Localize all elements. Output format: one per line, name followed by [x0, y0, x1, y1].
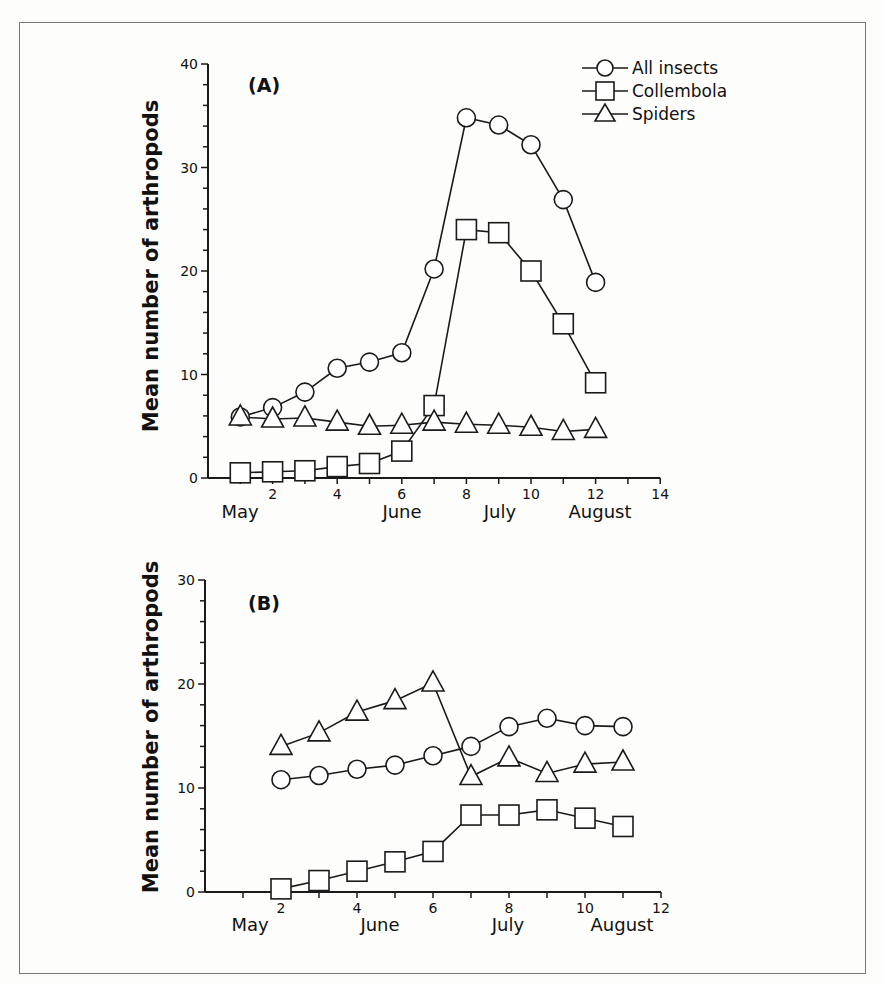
circle-marker: [424, 747, 442, 765]
square-icon: [596, 82, 614, 100]
legend: All insectsCollembolaSpiders: [582, 58, 727, 124]
series-collembola: [240, 230, 595, 473]
square-marker: [327, 457, 347, 477]
square-marker: [347, 861, 367, 881]
x-tick-label: 12: [587, 486, 605, 502]
chart-figure: 0102030402468101214MayJuneJulyAugustMean…: [0, 0, 883, 984]
month-label: May: [231, 914, 269, 935]
series-all-insects: [281, 718, 623, 779]
x-tick-label: 10: [522, 486, 540, 502]
circle-marker: [576, 717, 594, 735]
x-tick-label: 12: [652, 900, 670, 916]
month-label: June: [381, 501, 421, 522]
square-marker: [309, 871, 329, 891]
triangle-icon: [595, 104, 615, 121]
legend-label: All insects: [632, 58, 718, 78]
y-tick-label: 20: [180, 263, 198, 279]
square-marker: [385, 852, 405, 872]
triangle-marker: [308, 721, 330, 741]
triangle-marker: [460, 765, 482, 785]
triangle-marker: [488, 413, 510, 433]
circle-marker: [361, 353, 379, 371]
square-marker: [521, 261, 541, 281]
triangle-marker: [574, 752, 596, 772]
legend-item: Collembola: [582, 81, 727, 101]
triangle-marker: [422, 671, 444, 691]
triangle-marker: [384, 689, 406, 709]
square-marker: [295, 461, 315, 481]
series-line: [281, 683, 623, 777]
triangle-marker: [498, 746, 520, 766]
y-tick-label: 20: [177, 676, 195, 692]
month-label: August: [591, 914, 654, 935]
square-marker: [230, 463, 250, 483]
triangle-marker: [359, 414, 381, 434]
y-tick-label: 10: [177, 780, 195, 796]
triangle-marker: [294, 406, 316, 426]
square-marker: [360, 454, 380, 474]
x-tick-label: 8: [462, 486, 471, 502]
month-label: July: [491, 914, 525, 935]
x-tick-label: 2: [268, 486, 277, 502]
square-marker: [271, 879, 291, 899]
legend-label: Spiders: [632, 104, 696, 124]
square-marker: [613, 816, 633, 836]
circle-marker: [500, 718, 518, 736]
y-tick-label: 30: [180, 160, 198, 176]
series-line: [281, 810, 623, 889]
circle-marker: [554, 191, 572, 209]
series-collembola: [281, 810, 623, 889]
circle-marker: [272, 771, 290, 789]
square-marker: [263, 462, 283, 482]
triangle-marker: [520, 415, 542, 435]
square-marker: [489, 223, 509, 243]
square-marker: [392, 441, 412, 461]
square-marker: [586, 373, 606, 393]
month-label: July: [483, 501, 517, 522]
circle-marker: [386, 756, 404, 774]
legend-label: Collembola: [632, 81, 727, 101]
series-line: [281, 718, 623, 779]
circle-marker: [296, 383, 314, 401]
markers-collembola: [230, 220, 605, 483]
circle-icon: [597, 60, 613, 76]
square-marker: [553, 314, 573, 334]
panel-label: (A): [248, 74, 280, 96]
circle-marker: [425, 260, 443, 278]
y-axis-label: Mean number of arthropods: [139, 100, 163, 432]
x-tick-label: 6: [429, 900, 438, 916]
square-marker: [575, 808, 595, 828]
markers-all-insects: [231, 109, 604, 426]
month-label: August: [569, 501, 632, 522]
square-marker: [499, 805, 519, 825]
square-marker: [461, 805, 481, 825]
panel-a: 0102030402468101214MayJuneJulyAugustMean…: [139, 56, 669, 522]
panel-b: 010203024681012MayJuneJulyAugustMean num…: [139, 561, 670, 935]
circle-marker: [310, 767, 328, 785]
triangle-marker: [552, 419, 574, 439]
y-tick-label: 30: [177, 572, 195, 588]
y-tick-label: 0: [189, 470, 198, 486]
square-marker: [537, 800, 557, 820]
month-label: June: [359, 914, 399, 935]
series-spiders: [281, 683, 623, 777]
triangle-marker: [612, 750, 634, 770]
circle-marker: [462, 737, 480, 755]
square-marker: [456, 220, 476, 240]
x-tick-label: 2: [277, 900, 286, 916]
circle-marker: [328, 359, 346, 377]
circle-marker: [348, 760, 366, 778]
y-tick-label: 40: [180, 56, 198, 72]
x-tick-label: 4: [333, 486, 342, 502]
month-label: May: [221, 501, 259, 522]
x-tick-label: 14: [651, 486, 669, 502]
circle-marker: [614, 718, 632, 736]
circle-marker: [538, 709, 556, 727]
triangle-marker: [326, 410, 348, 430]
series-line: [240, 118, 595, 417]
y-tick-label: 10: [180, 367, 198, 383]
triangle-marker: [585, 417, 607, 437]
legend-item: All insects: [582, 58, 718, 78]
y-tick-label: 0: [186, 884, 195, 900]
panel-label: (B): [248, 592, 280, 614]
